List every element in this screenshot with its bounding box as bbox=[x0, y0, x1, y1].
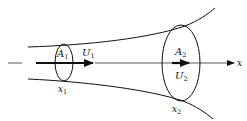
streamtube-diagram: A1 U1 x1 A2 U2 x2 x bbox=[0, 0, 247, 121]
position-label-1: x1 bbox=[58, 84, 67, 96]
velocity-label-1: U1 bbox=[82, 47, 95, 60]
velocity-label-2: U2 bbox=[175, 70, 188, 83]
axis-label-x: x bbox=[237, 58, 242, 68]
lower-wall-curve bbox=[28, 79, 213, 119]
position-label-2: x2 bbox=[172, 104, 181, 116]
area-label-1: A1 bbox=[56, 48, 68, 61]
upper-wall-curve bbox=[28, 8, 215, 47]
area-label-2: A2 bbox=[174, 46, 186, 59]
